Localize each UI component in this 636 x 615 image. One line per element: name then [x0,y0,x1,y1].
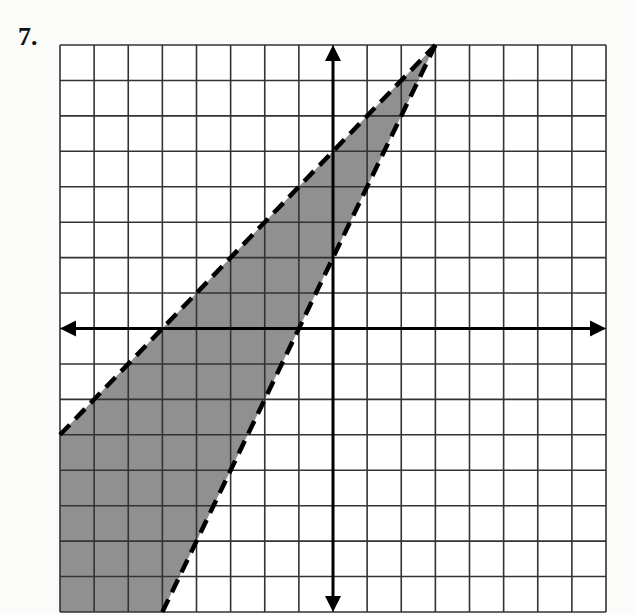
coordinate-grid-graph [0,0,636,615]
